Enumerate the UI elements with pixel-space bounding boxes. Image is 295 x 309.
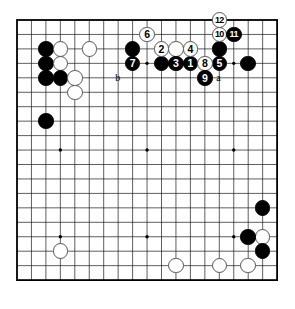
black-stone[interactable] [38,56,54,72]
white-stone[interactable] [168,258,184,274]
black-stone[interactable] [240,229,256,245]
black-stone[interactable] [53,70,69,86]
white-stone[interactable] [82,41,98,57]
move-number: 10 [215,30,224,39]
move-number: 7 [130,58,136,69]
black-stone[interactable] [240,56,256,72]
black-stone[interactable] [212,41,228,57]
move-number: 9 [202,73,208,84]
move-stone-10[interactable]: 10 [212,27,228,43]
move-stone-9[interactable]: 9 [197,70,213,86]
move-stone-8[interactable]: 8 [197,56,213,72]
black-stone[interactable] [38,41,54,57]
black-stone[interactable] [255,200,271,216]
move-number: 12 [215,16,224,25]
point-label-b: b [115,73,120,83]
move-number: 6 [144,29,150,40]
move-number: 3 [173,58,179,69]
move-stone-12[interactable]: 12 [212,12,228,28]
move-number: 11 [230,30,238,39]
move-stone-1[interactable]: 1 [183,56,199,72]
go-diagram: 123456789101112ba [0,0,295,309]
move-number: 4 [187,44,193,55]
black-stone[interactable] [125,41,141,57]
black-stone[interactable] [38,70,54,86]
white-stone[interactable] [53,56,69,72]
white-stone[interactable] [53,41,69,57]
move-stone-11[interactable]: 11 [226,27,242,43]
move-number: 5 [216,58,222,69]
move-stone-4[interactable]: 4 [183,41,199,57]
black-stone[interactable] [38,113,54,129]
white-stone[interactable] [67,70,83,86]
move-stone-5[interactable]: 5 [212,56,228,72]
move-stone-3[interactable]: 3 [168,56,184,72]
move-stone-6[interactable]: 6 [139,27,155,43]
move-stone-2[interactable]: 2 [154,41,170,57]
move-number: 2 [159,44,165,55]
point-label-a: a [216,73,220,83]
white-stone[interactable] [255,229,271,245]
white-stone[interactable] [67,85,83,101]
white-stone[interactable] [168,41,184,57]
move-number: 1 [187,58,193,69]
white-stone[interactable] [53,243,69,259]
move-number: 8 [202,58,208,69]
